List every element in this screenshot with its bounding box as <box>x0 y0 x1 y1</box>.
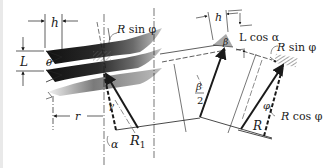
label-R-sin-phi-right: R sin φ <box>276 41 317 54</box>
label-L: L <box>19 55 28 69</box>
label-R1: R1 <box>129 133 146 150</box>
label-alpha: α <box>111 138 119 151</box>
label-phi: φ <box>263 100 270 111</box>
label-beta-over-2-den: 2 <box>197 95 203 106</box>
label-h-right: h <box>215 11 222 24</box>
label-theta: θ <box>46 57 52 68</box>
label-beta: β <box>222 37 228 47</box>
diagram-canvas: h L θ R sin φ γ r α R1 h β L cos α β 2 R… <box>0 0 329 168</box>
thread-force-diagram: h L θ R sin φ γ r α R1 h β L cos α β 2 R… <box>0 0 329 168</box>
label-R: R <box>252 119 262 133</box>
label-h-left: h <box>51 16 59 30</box>
label-beta-over-2-num: β <box>195 81 202 92</box>
label-R-cos-phi: R cos φ <box>280 110 323 123</box>
label-R-sin-phi-left: R sin φ <box>116 23 157 36</box>
label-gamma: γ <box>108 100 114 111</box>
label-r: r <box>75 110 81 123</box>
label-L-cos-alpha: L cos α <box>239 31 280 44</box>
